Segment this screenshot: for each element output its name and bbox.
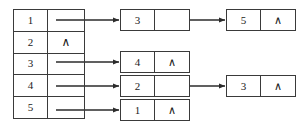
node-value: 5 <box>227 10 261 30</box>
array-row: 1 <box>14 10 84 32</box>
array-row: 2 ∧ <box>14 32 84 54</box>
array-index-cell: 2 <box>14 32 48 53</box>
vertex-array: 1 2 ∧ 3 4 5 <box>13 9 85 119</box>
node-value: 2 <box>121 76 155 96</box>
list-node: 3 <box>120 9 190 31</box>
array-pointer-cell <box>48 10 84 31</box>
node-value: 3 <box>227 76 261 96</box>
array-index-cell: 1 <box>14 10 48 31</box>
list-node: 2 <box>120 75 190 97</box>
array-index-cell: 3 <box>14 54 48 75</box>
node-value: 4 <box>121 52 155 72</box>
array-index-cell: 4 <box>14 75 48 96</box>
array-pointer-cell <box>48 75 84 96</box>
array-row: 4 <box>14 75 84 97</box>
array-index-cell: 5 <box>14 97 48 118</box>
array-pointer-cell <box>48 54 84 75</box>
adjacency-list-diagram: 1 2 ∧ 3 4 5 3 5 ∧ 4 ∧ 2 <box>0 0 308 130</box>
node-next-pointer: ∧ <box>155 52 189 72</box>
array-row: 3 <box>14 54 84 76</box>
array-pointer-cell <box>48 97 84 118</box>
list-node: 4 ∧ <box>120 51 190 73</box>
node-next-pointer <box>155 76 189 96</box>
node-next-pointer: ∧ <box>155 100 189 120</box>
list-node: 3 ∧ <box>226 75 296 97</box>
node-next-pointer: ∧ <box>261 10 295 30</box>
node-value: 3 <box>121 10 155 30</box>
node-next-pointer: ∧ <box>261 76 295 96</box>
node-value: 1 <box>121 100 155 120</box>
list-node: 5 ∧ <box>226 9 296 31</box>
array-row: 5 <box>14 97 84 118</box>
node-next-pointer <box>155 10 189 30</box>
array-pointer-cell: ∧ <box>48 32 84 53</box>
list-node: 1 ∧ <box>120 99 190 121</box>
